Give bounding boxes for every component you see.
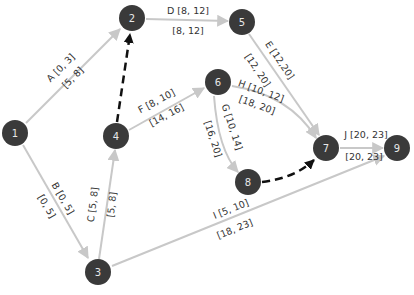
node-9[interactable]: 9 — [384, 135, 410, 161]
node-1[interactable]: 1 — [2, 120, 28, 146]
svg-text:1: 1 — [12, 128, 18, 139]
node-6[interactable]: 6 — [205, 69, 231, 95]
svg-text:[8, 12]: [8, 12] — [172, 25, 204, 36]
dummy-edge-8-7 — [262, 160, 314, 182]
edge-F: F [8, 10] [14, 16] — [129, 87, 204, 130]
svg-text:3: 3 — [95, 267, 101, 278]
node-4[interactable]: 4 — [103, 123, 129, 149]
node-3[interactable]: 3 — [85, 259, 111, 285]
svg-text:2: 2 — [129, 13, 135, 24]
edge-C: C [5, 8] [5, 8] — [85, 150, 119, 259]
node-8[interactable]: 8 — [235, 169, 261, 195]
dummy-edge-4-2 — [117, 34, 130, 122]
svg-text:5: 5 — [239, 17, 245, 28]
edge-J: J [20, 23] [20, 23] — [340, 129, 388, 162]
edge-B: B [0, 5] [0, 5] — [23, 145, 88, 258]
svg-text:[0, 5]: [0, 5] — [36, 192, 58, 220]
svg-text:[20, 23]: [20, 23] — [345, 151, 383, 162]
svg-text:D [8, 12]: D [8, 12] — [167, 5, 209, 16]
svg-text:8: 8 — [245, 177, 251, 188]
svg-text:C [5, 8]: C [5, 8] — [85, 186, 100, 222]
svg-text:6: 6 — [215, 77, 221, 88]
svg-text:9: 9 — [394, 143, 400, 154]
svg-text:[5, 8]: [5, 8] — [105, 191, 119, 218]
svg-text:[18, 23]: [18, 23] — [215, 217, 254, 241]
node-2[interactable]: 2 — [119, 5, 145, 31]
edge-A: A [0, 3] [5, 8] — [26, 29, 120, 123]
network-diagram: A [0, 3] [5, 8] B [0, 5] [0, 5] C [5, 8]… — [0, 0, 414, 295]
svg-text:J [20, 23]: J [20, 23] — [343, 129, 387, 140]
node-5[interactable]: 5 — [229, 9, 255, 35]
edge-D: D [8, 12] [8, 12] — [146, 5, 228, 36]
edge-G: G [10, 14] [16, 20] — [202, 96, 245, 172]
edge-H: H [10, 12] [18, 20] — [232, 77, 316, 138]
node-7[interactable]: 7 — [313, 135, 339, 161]
svg-text:7: 7 — [323, 143, 329, 154]
svg-text:4: 4 — [113, 131, 119, 142]
